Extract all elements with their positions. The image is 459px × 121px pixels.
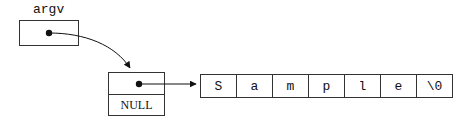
- pointer-arrows: [0, 0, 459, 121]
- argv-to-array-arrow-icon: [49, 33, 130, 68]
